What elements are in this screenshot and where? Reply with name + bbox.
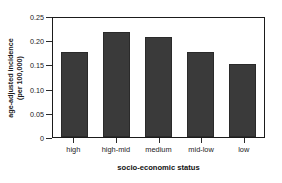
y-tick-label: 0.15 (30, 61, 44, 70)
y-tick-label: 0.10 (30, 85, 44, 94)
bar-mid-low (187, 52, 214, 137)
y-tick-label: 0.05 (30, 109, 44, 118)
x-tick-label-medium: medium (145, 145, 171, 154)
x-tick-label-low: low (238, 145, 249, 154)
x-tick-label-high: high (66, 145, 80, 154)
x-tick-mark (73, 138, 74, 143)
x-tick-mark (159, 138, 160, 143)
y-axis-title-line1: age-adjusted incidence (6, 38, 15, 117)
bar-high (61, 52, 88, 137)
bar-high-mid (103, 32, 130, 137)
bar-medium (145, 37, 172, 137)
y-tick-label: 0.20 (30, 37, 44, 46)
x-tick-mark (116, 138, 117, 143)
y-tick-label: 0.25 (30, 13, 44, 22)
y-axis-title: age-adjusted incidence (per 100,000) (4, 18, 26, 138)
plot-area (52, 17, 265, 138)
y-axis-title-line2: (per 100,000) (15, 38, 24, 117)
x-tick-mark (244, 138, 245, 143)
cropped-title-text (86, 0, 198, 5)
x-tick-label-mid-low: mid-low (188, 145, 213, 154)
bar-series (53, 18, 264, 137)
y-tick-label: 0 (40, 134, 44, 143)
x-tick-label-high-mid: high-mid (102, 145, 130, 154)
x-axis-title: socio-economic status (52, 163, 265, 172)
bar-low (229, 64, 256, 137)
bar-chart-figure: age-adjusted incidence (per 100,000) 0.2… (0, 0, 282, 183)
x-tick-mark (201, 138, 202, 143)
y-axis-title-text: age-adjusted incidence (per 100,000) (6, 38, 24, 117)
y-tick-mark (46, 138, 52, 139)
